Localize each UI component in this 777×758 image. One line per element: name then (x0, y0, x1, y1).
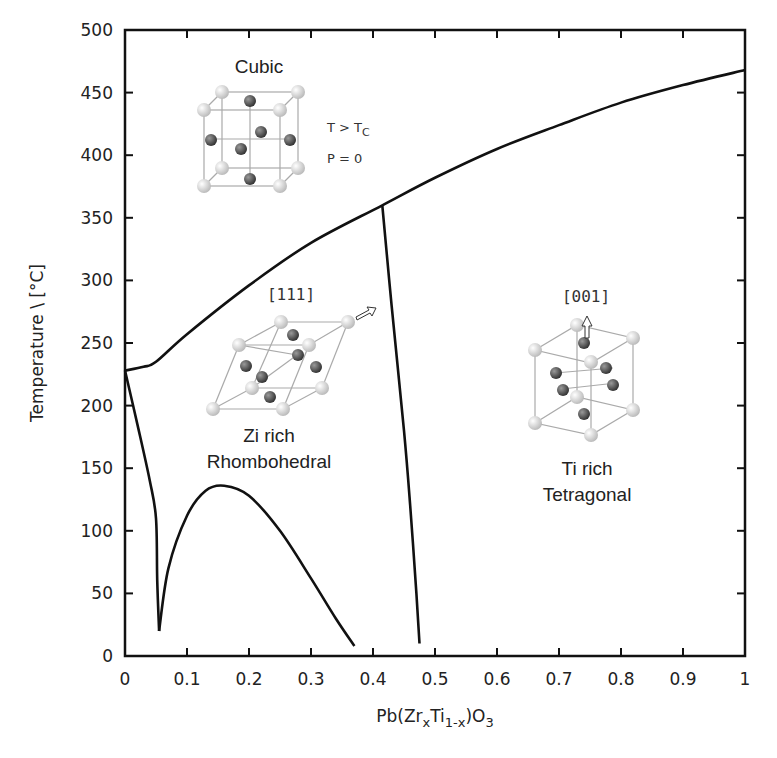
x-axis-title: Pb(ZrxTi1-x)O3 (376, 706, 494, 730)
x-tick-label: 0.2 (235, 669, 262, 689)
y-tick-label: 150 (81, 458, 113, 478)
phase-diagram-chart: 00.10.20.30.40.50.60.70.80.9105010015020… (0, 0, 777, 758)
zr-rich-label: Zi rich (243, 425, 295, 446)
phase-boundary-line-2 (125, 371, 159, 631)
x-tick-label: 0 (120, 669, 131, 689)
y-tick-label: 450 (81, 83, 113, 103)
y-tick-label: 350 (81, 208, 113, 228)
x-tick-label: 0.4 (359, 669, 386, 689)
tetragonal-atoms (528, 318, 640, 442)
y-tick-label: 0 (102, 646, 113, 666)
plot-axes (125, 30, 745, 656)
y-tick-label: 50 (91, 583, 113, 603)
phase-boundary-line-0 (125, 70, 745, 370)
y-axis-title: Temperature \ [°C] (27, 264, 47, 423)
tetragonal-label: Tetragonal (543, 484, 632, 505)
y-tick-label: 500 (81, 20, 113, 40)
arrow-111-icon (356, 307, 376, 320)
x-tick-label: 0.9 (669, 669, 696, 689)
x-tick-label: 0.1 (173, 669, 200, 689)
x-tick-label: 0.5 (421, 669, 448, 689)
plot-frame (125, 30, 745, 656)
phase-boundary-curves (125, 70, 745, 646)
x-tick-label: 0.6 (483, 669, 510, 689)
x-tick-label: 0.3 (297, 669, 324, 689)
pressure-condition-label: P = 0 (327, 151, 362, 166)
x-tick-label: 1 (740, 669, 751, 689)
y-tick-label: 250 (81, 333, 113, 353)
direction-111-label: [111] (267, 285, 315, 304)
rhombohedral-label: Rhombohedral (207, 451, 332, 472)
phase-boundary-line-1 (382, 205, 419, 643)
x-tick-label: 0.8 (607, 669, 634, 689)
ti-rich-label: Ti rich (561, 458, 612, 479)
cubic-label: Cubic (235, 56, 284, 77)
rhombohedral-unit-cell-icon (213, 322, 348, 409)
y-tick-label: 300 (81, 270, 113, 290)
x-tick-label: 0.7 (545, 669, 572, 689)
y-tick-label: 200 (81, 396, 113, 416)
y-tick-label: 400 (81, 145, 113, 165)
direction-001-label: [001] (562, 287, 610, 306)
phase-boundary-line-3 (159, 485, 354, 646)
temperature-condition-label: T > TC (326, 120, 370, 139)
y-tick-label: 100 (81, 521, 113, 541)
